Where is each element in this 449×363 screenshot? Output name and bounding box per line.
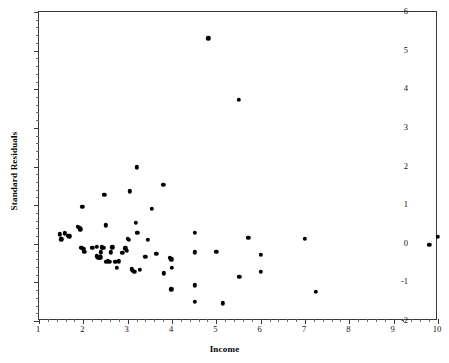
y-axis-minor-tick	[36, 66, 39, 67]
data-point	[314, 290, 318, 294]
data-point	[236, 98, 240, 102]
y-axis-minor-tick	[36, 20, 39, 21]
x-axis-minor-tick	[278, 319, 279, 322]
y-axis-minor-tick	[36, 136, 39, 137]
x-axis-tick-label: 6	[250, 325, 270, 334]
data-point	[169, 257, 173, 261]
y-axis-minor-tick	[36, 306, 39, 307]
y-axis-minor-tick	[36, 112, 39, 113]
plot-area	[38, 11, 437, 320]
data-point	[427, 243, 431, 247]
y-axis-minor-tick	[36, 143, 39, 144]
y-axis-tick-label: 0	[386, 239, 408, 248]
y-axis-tick	[34, 89, 39, 90]
y-axis-tick	[34, 12, 39, 13]
y-axis-tick-label: 6	[386, 7, 408, 16]
y-axis-minor-tick	[36, 35, 39, 36]
x-axis-minor-tick	[429, 319, 430, 322]
y-axis-tick-label: 4	[386, 84, 408, 93]
data-point	[193, 299, 197, 303]
x-axis-minor-tick	[270, 319, 271, 322]
y-axis-tick	[34, 244, 39, 245]
data-point	[78, 227, 82, 231]
x-axis-minor-tick	[314, 319, 315, 322]
y-axis-minor-tick	[36, 58, 39, 59]
x-axis-minor-tick	[376, 319, 377, 322]
data-point	[114, 266, 118, 270]
y-axis-minor-tick	[36, 197, 39, 198]
y-axis-minor-tick	[36, 313, 39, 314]
data-point	[214, 250, 218, 254]
x-axis-minor-tick	[411, 319, 412, 322]
x-axis-minor-tick	[92, 319, 93, 322]
data-point	[143, 255, 147, 259]
y-axis-minor-tick	[36, 290, 39, 291]
x-axis-title: Income	[0, 344, 449, 354]
data-point	[67, 234, 71, 238]
x-axis-minor-tick	[243, 319, 244, 322]
x-axis-minor-tick	[367, 319, 368, 322]
scatter-plot-figure: Standard Residuals Income -2-10123456123…	[0, 0, 449, 363]
x-axis-minor-tick	[154, 319, 155, 322]
data-point	[103, 223, 107, 227]
y-axis-minor-tick	[36, 27, 39, 28]
data-point	[110, 245, 114, 249]
x-axis-minor-tick	[340, 319, 341, 322]
x-axis-minor-tick	[296, 319, 297, 322]
x-axis-tick-label: 9	[383, 325, 403, 334]
x-axis-minor-tick	[48, 319, 49, 322]
data-point	[170, 265, 174, 269]
data-point	[82, 250, 86, 254]
x-axis-minor-tick	[119, 319, 120, 322]
y-axis-tick-label: -2	[386, 316, 408, 325]
y-axis-minor-tick	[36, 251, 39, 252]
y-axis-tick-label: -1	[386, 277, 408, 286]
y-axis-tick	[34, 128, 39, 129]
x-axis-tick-label: 2	[72, 325, 92, 334]
y-axis-minor-tick	[36, 213, 39, 214]
data-point	[237, 274, 241, 278]
data-point	[138, 268, 142, 272]
data-point	[193, 250, 197, 254]
x-axis-minor-tick	[110, 319, 111, 322]
data-point	[99, 250, 103, 254]
x-axis-minor-tick	[57, 319, 58, 322]
data-point	[59, 237, 63, 241]
data-point	[94, 245, 98, 249]
y-axis-minor-tick	[36, 159, 39, 160]
x-axis-minor-tick	[207, 319, 208, 322]
data-point	[135, 230, 139, 234]
data-point	[246, 235, 250, 239]
y-axis-title: Standard Residuals	[9, 91, 19, 251]
y-axis-minor-tick	[36, 97, 39, 98]
x-axis-tick-label: 1	[28, 325, 48, 334]
x-axis-minor-tick	[74, 319, 75, 322]
x-axis-minor-tick	[358, 319, 359, 322]
y-axis-minor-tick	[36, 221, 39, 222]
x-axis-minor-tick	[287, 319, 288, 322]
data-point	[117, 259, 121, 263]
data-point	[125, 248, 129, 252]
x-axis-minor-tick	[199, 319, 200, 322]
y-axis-tick-label: 1	[386, 200, 408, 209]
y-axis-minor-tick	[36, 120, 39, 121]
data-point	[109, 250, 113, 254]
x-axis-minor-tick	[137, 319, 138, 322]
y-axis-minor-tick	[36, 267, 39, 268]
data-point	[126, 237, 130, 241]
y-axis-minor-tick	[36, 190, 39, 191]
x-axis-minor-tick	[163, 319, 164, 322]
data-point	[80, 204, 84, 208]
x-axis-minor-tick	[145, 319, 146, 322]
data-point	[133, 220, 137, 224]
x-axis-tick-label: 10	[427, 325, 447, 334]
data-point	[169, 287, 173, 291]
y-axis-minor-tick	[36, 151, 39, 152]
data-point	[102, 192, 106, 196]
data-point	[193, 283, 197, 287]
data-point	[161, 182, 165, 186]
x-axis-tick-label: 7	[294, 325, 314, 334]
y-axis-tick	[34, 282, 39, 283]
y-axis-tick	[34, 167, 39, 168]
y-axis-minor-tick	[36, 82, 39, 83]
